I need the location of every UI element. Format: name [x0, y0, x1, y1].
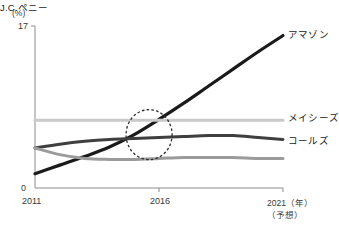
series-line: [35, 148, 283, 160]
series-label-kohls: コールズ: [288, 133, 329, 147]
x-axis-tick-label-2021: 2021（年）: [267, 196, 313, 208]
x-axis-forecast-note: （予想）: [267, 208, 303, 220]
x-axis-tick-label-2016: 2016: [150, 196, 170, 206]
y-axis-zero-tick-label: 0: [21, 183, 26, 193]
x-axis-tick-label-2011: 2011: [22, 196, 41, 206]
axis-lines: [31, 26, 283, 192]
series-paths: [35, 36, 283, 174]
series-line: [35, 36, 283, 174]
series-label-macys: メイシーズ: [288, 110, 339, 124]
series-line: [35, 135, 283, 148]
series-label-amazon: アマゾン: [288, 27, 329, 41]
y-axis-max-tick-label: 17: [18, 21, 28, 31]
series-label-jcpenney: J.C.ペニー: [0, 0, 48, 14]
